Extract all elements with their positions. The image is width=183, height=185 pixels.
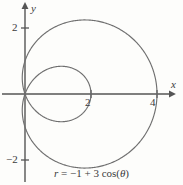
caption-expression: −1 + 3 cos( bbox=[70, 167, 120, 179]
caption-variable: r bbox=[54, 167, 58, 179]
caption-paren-close: ) bbox=[125, 167, 129, 179]
figure-caption: r = −1 + 3 cos(θ) bbox=[0, 167, 183, 179]
polar-plot-figure: 2 4 2 −2 x y r = −1 + 3 cos(θ) bbox=[0, 0, 183, 185]
caption-equals: = bbox=[61, 167, 67, 179]
y-tick-label-neg-2: −2 bbox=[6, 154, 18, 165]
x-tick-label-4: 4 bbox=[150, 97, 156, 108]
y-tick-label-2: 2 bbox=[12, 22, 18, 33]
plot-canvas bbox=[0, 0, 183, 185]
x-tick-label-2: 2 bbox=[85, 97, 91, 108]
x-axis-label: x bbox=[171, 79, 176, 90]
y-axis-label: y bbox=[31, 3, 36, 14]
